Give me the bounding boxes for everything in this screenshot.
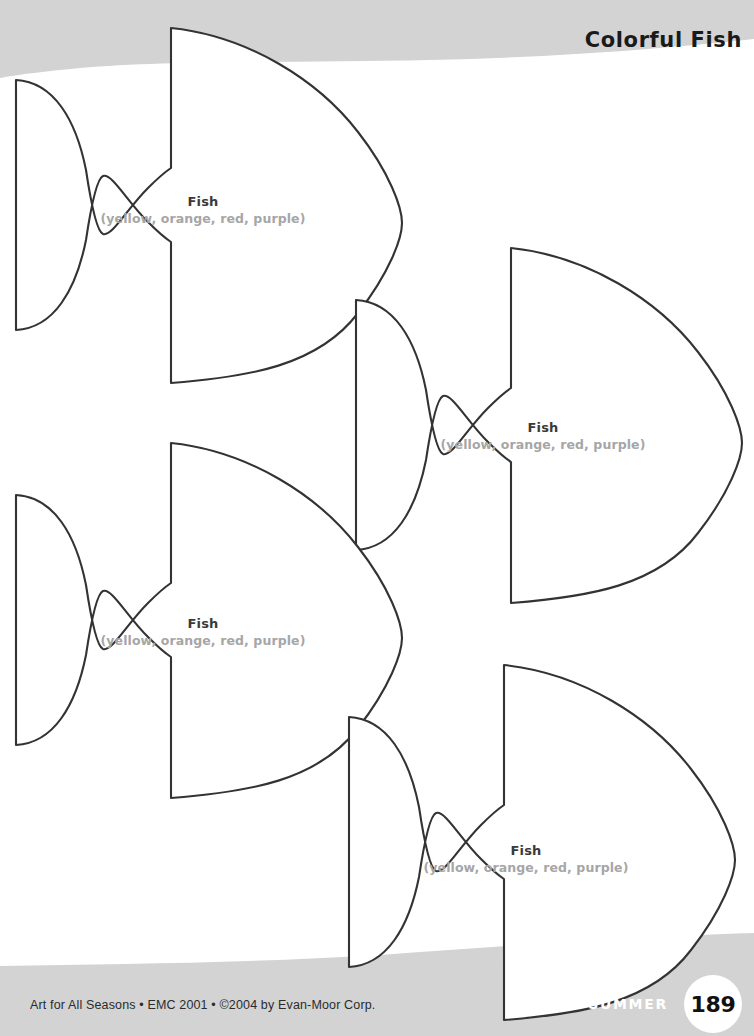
page-number-badge: 189 — [684, 975, 742, 1033]
fish-colors: (yellow, orange, red, purple) — [424, 860, 629, 876]
footer-season-label: SUMMER — [588, 996, 668, 1012]
fish-label-2: Fish (yellow, orange, red, purple) — [441, 420, 646, 453]
footer-credit-line: Art for All Seasons • EMC 2001 • ©2004 b… — [30, 998, 375, 1012]
header-title-block: Colorful Fish TEMPLATES — [585, 30, 742, 72]
fish-name: Fish — [424, 843, 629, 859]
fish-name: Fish — [441, 420, 646, 436]
fish-template-4[interactable] — [341, 657, 741, 1027]
worksheet-page: Fish (yellow, orange, red, purple) Fish … — [0, 0, 754, 1036]
fish-label-3: Fish (yellow, orange, red, purple) — [101, 616, 306, 649]
fish-colors: (yellow, orange, red, purple) — [101, 211, 306, 227]
fish-name: Fish — [101, 616, 306, 632]
page-subtitle: TEMPLATES — [585, 56, 742, 72]
page-title: Colorful Fish — [585, 30, 742, 51]
fish-outline-icon — [341, 657, 741, 1027]
fish-colors: (yellow, orange, red, purple) — [101, 633, 306, 649]
fish-name: Fish — [101, 194, 306, 210]
fish-colors: (yellow, orange, red, purple) — [441, 437, 646, 453]
page-number: 189 — [690, 992, 735, 1017]
fish-label-1: Fish (yellow, orange, red, purple) — [101, 194, 306, 227]
fish-label-4: Fish (yellow, orange, red, purple) — [424, 843, 629, 876]
